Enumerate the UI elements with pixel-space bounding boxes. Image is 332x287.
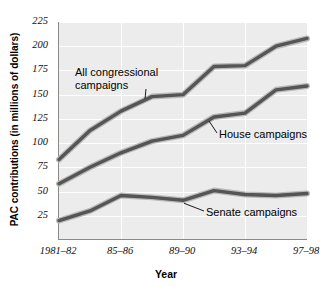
pac-contributions-line-chart: PAC contributions (in millions of dollar… (0, 0, 332, 287)
leader-senate (184, 203, 204, 211)
annotation-leader-lines (0, 0, 332, 287)
leader-house (209, 121, 217, 133)
leader-all-congressional (145, 89, 146, 99)
